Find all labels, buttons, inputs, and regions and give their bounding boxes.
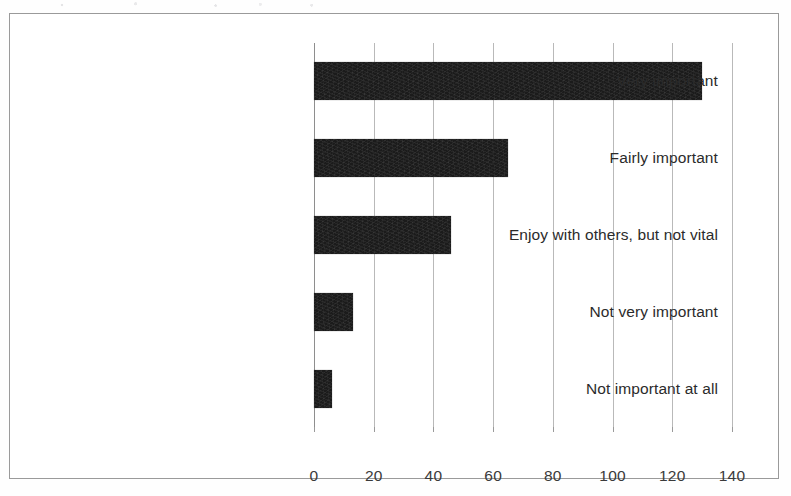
x-tick-mark-100 [613,427,614,432]
x-tick-label: 120 [659,467,685,485]
chart-figure: 020406080100120140Very importantFairly i… [0,0,791,496]
chart-frame: 020406080100120140Very importantFairly i… [9,13,779,479]
x-tick-label: 40 [425,467,443,485]
x-tick-label: 140 [719,467,745,485]
bar[interactable] [314,293,353,331]
x-tick-label: 0 [310,467,319,485]
x-tick-label: 60 [484,467,502,485]
bar[interactable] [314,216,451,254]
category-label: Very important [617,62,718,100]
bar[interactable] [314,370,332,408]
category-label: Not very important [590,293,718,331]
x-tick-label: 80 [544,467,562,485]
x-tick-mark-40 [433,427,434,432]
x-tick-mark-20 [374,427,375,432]
category-label: Not important at all [586,370,718,408]
x-tick-label: 20 [365,467,383,485]
category-label: Fairly important [610,139,718,177]
x-tick-mark-0 [314,427,315,432]
x-tick-label: 100 [599,467,625,485]
bar[interactable] [314,139,508,177]
x-tick-mark-60 [493,427,494,432]
scan-artifact [30,2,350,8]
gridline-140 [732,43,733,427]
x-tick-mark-140 [732,427,733,432]
x-tick-mark-80 [553,427,554,432]
category-label: Enjoy with others, but not vital [509,216,718,254]
x-tick-mark-120 [672,427,673,432]
plot-area: 020406080100120140Very importantFairly i… [314,43,732,427]
